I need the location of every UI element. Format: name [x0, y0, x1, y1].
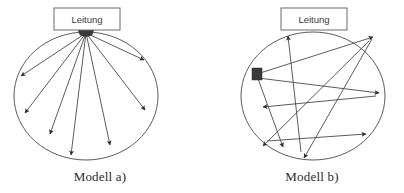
communication-arrow [304, 39, 372, 158]
panel-model-a: Leitung Modell a) [14, 8, 158, 184]
panel-caption-a: Modell a) [74, 169, 127, 184]
leitung-box-a-label: Leitung [71, 14, 102, 25]
member-node-marker [252, 68, 262, 80]
communication-arrow [263, 96, 376, 107]
leitung-box-b-label: Leitung [298, 14, 329, 25]
communication-arrow [288, 36, 301, 152]
group-boundary-circle-a [14, 32, 158, 160]
communication-arrow [263, 41, 369, 146]
panel-model-b: Leitung Modell b) [241, 8, 385, 184]
arrow-group-b [257, 36, 379, 158]
communication-arrow [71, 33, 86, 155]
communication-arrow [25, 33, 86, 113]
communication-arrow [50, 33, 86, 134]
communication-arrow [86, 33, 145, 110]
communication-arrow [86, 33, 110, 145]
communication-arrow [257, 76, 283, 147]
arrow-group-a [21, 33, 145, 155]
communication-arrow [267, 134, 366, 141]
organisation-communication-figure: Leitung Modell a) Leitung Modell b) [0, 0, 404, 193]
panel-caption-b: Modell b) [285, 169, 338, 184]
